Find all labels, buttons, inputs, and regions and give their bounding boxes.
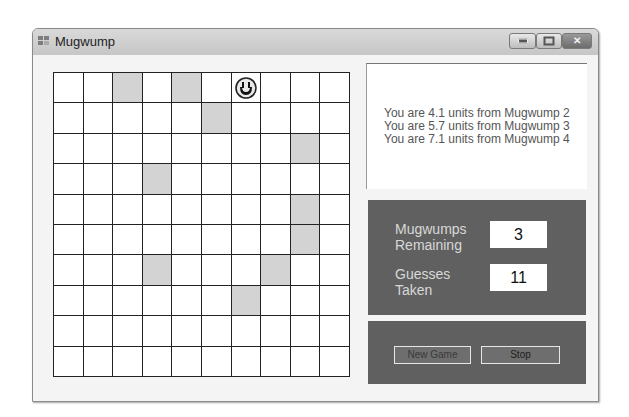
grid-cell[interactable]	[84, 195, 114, 225]
grid-cell[interactable]	[143, 103, 173, 133]
grid-cell[interactable]	[113, 134, 143, 164]
minimize-button[interactable]	[509, 33, 536, 49]
grid-cell[interactable]	[291, 286, 321, 316]
grid-cell[interactable]	[172, 73, 202, 103]
grid-cell[interactable]	[261, 225, 291, 255]
grid-cell[interactable]	[202, 347, 232, 377]
grid-cell[interactable]	[202, 73, 232, 103]
grid-cell[interactable]	[320, 164, 350, 194]
grid-cell[interactable]	[54, 103, 84, 133]
grid-cell[interactable]	[113, 103, 143, 133]
grid-cell[interactable]	[202, 134, 232, 164]
grid-cell[interactable]	[291, 255, 321, 285]
grid-cell[interactable]	[261, 73, 291, 103]
grid-cell[interactable]	[84, 225, 114, 255]
grid-cell[interactable]	[113, 255, 143, 285]
grid-cell[interactable]	[143, 164, 173, 194]
grid-cell[interactable]	[172, 164, 202, 194]
grid-cell[interactable]	[172, 286, 202, 316]
grid-cell[interactable]	[320, 316, 350, 346]
grid-cell[interactable]	[143, 225, 173, 255]
grid-cell[interactable]	[320, 286, 350, 316]
new-game-button[interactable]: New Game	[394, 346, 471, 364]
maximize-button[interactable]	[536, 33, 562, 49]
grid-cell[interactable]	[113, 225, 143, 255]
grid-cell[interactable]	[232, 195, 262, 225]
grid-cell[interactable]	[54, 255, 84, 285]
grid-cell[interactable]	[202, 164, 232, 194]
grid-cell[interactable]	[54, 316, 84, 346]
grid-cell[interactable]	[54, 134, 84, 164]
grid-cell[interactable]	[202, 286, 232, 316]
grid-cell[interactable]	[232, 316, 262, 346]
grid-cell[interactable]	[320, 134, 350, 164]
grid-cell[interactable]	[291, 316, 321, 346]
grid-cell[interactable]	[84, 103, 114, 133]
grid-cell[interactable]	[143, 134, 173, 164]
grid-cell[interactable]	[320, 347, 350, 377]
grid-cell[interactable]	[84, 134, 114, 164]
grid-cell[interactable]	[172, 225, 202, 255]
grid-cell[interactable]	[172, 103, 202, 133]
grid-cell[interactable]	[113, 195, 143, 225]
grid-cell[interactable]	[202, 103, 232, 133]
grid-cell[interactable]	[84, 73, 114, 103]
grid-cell[interactable]	[291, 195, 321, 225]
grid-cell[interactable]	[261, 347, 291, 377]
grid-cell[interactable]	[261, 164, 291, 194]
grid-cell[interactable]	[84, 164, 114, 194]
grid-cell[interactable]	[84, 347, 114, 377]
grid-cell[interactable]	[232, 225, 262, 255]
grid-cell[interactable]	[291, 73, 321, 103]
grid-cell[interactable]	[291, 103, 321, 133]
grid-cell[interactable]	[291, 164, 321, 194]
grid-cell[interactable]	[232, 73, 262, 103]
grid-cell[interactable]	[291, 347, 321, 377]
grid-cell[interactable]	[143, 286, 173, 316]
grid-cell[interactable]	[291, 134, 321, 164]
grid-cell[interactable]	[84, 316, 114, 346]
grid-cell[interactable]	[232, 286, 262, 316]
grid-cell[interactable]	[320, 225, 350, 255]
grid-cell[interactable]	[202, 195, 232, 225]
grid-cell[interactable]	[54, 73, 84, 103]
close-button[interactable]: ✕	[562, 33, 592, 49]
grid-cell[interactable]	[113, 73, 143, 103]
grid-cell[interactable]	[202, 316, 232, 346]
grid-cell[interactable]	[143, 73, 173, 103]
grid-cell[interactable]	[232, 103, 262, 133]
grid-cell[interactable]	[172, 316, 202, 346]
grid-cell[interactable]	[261, 286, 291, 316]
grid-cell[interactable]	[320, 255, 350, 285]
grid-cell[interactable]	[261, 316, 291, 346]
grid-cell[interactable]	[172, 347, 202, 377]
grid-cell[interactable]	[143, 347, 173, 377]
grid-cell[interactable]	[261, 195, 291, 225]
grid-cell[interactable]	[143, 195, 173, 225]
grid-cell[interactable]	[261, 134, 291, 164]
grid-cell[interactable]	[54, 347, 84, 377]
grid-cell[interactable]	[54, 286, 84, 316]
grid-cell[interactable]	[232, 255, 262, 285]
grid-cell[interactable]	[202, 255, 232, 285]
grid-cell[interactable]	[261, 103, 291, 133]
grid-cell[interactable]	[84, 255, 114, 285]
grid-cell[interactable]	[291, 225, 321, 255]
grid-cell[interactable]	[320, 103, 350, 133]
stop-button[interactable]: Stop	[481, 346, 560, 364]
grid-cell[interactable]	[143, 316, 173, 346]
grid-cell[interactable]	[232, 347, 262, 377]
grid-cell[interactable]	[320, 195, 350, 225]
grid-cell[interactable]	[54, 225, 84, 255]
title-bar[interactable]: Mugwump ✕	[33, 29, 598, 55]
grid-cell[interactable]	[143, 255, 173, 285]
grid-cell[interactable]	[172, 195, 202, 225]
grid-cell[interactable]	[113, 316, 143, 346]
grid-cell[interactable]	[54, 195, 84, 225]
grid-cell[interactable]	[54, 164, 84, 194]
grid-cell[interactable]	[232, 164, 262, 194]
grid-cell[interactable]	[113, 164, 143, 194]
grid-cell[interactable]	[84, 286, 114, 316]
grid-cell[interactable]	[261, 255, 291, 285]
grid-cell[interactable]	[113, 347, 143, 377]
